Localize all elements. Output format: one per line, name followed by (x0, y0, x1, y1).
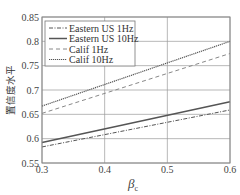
x-tick-label: 0.3 (36, 164, 49, 175)
legend-label: Eastern US 1Hz (69, 23, 134, 34)
x-axis-label: βc (127, 176, 138, 193)
legend-label: Calif 1Hz (69, 44, 109, 55)
series-line (42, 110, 230, 147)
x-tick-label: 0.6 (224, 164, 237, 175)
y-tick-label: 0.8 (27, 36, 40, 47)
x-tick-label: 0.5 (161, 164, 174, 175)
x-axis-ticks: 0.30.40.50.6 (36, 164, 237, 175)
y-axis-ticks: 0.550.60.650.70.750.80.85 (22, 12, 40, 169)
y-tick-label: 0.75 (22, 60, 40, 71)
y-tick-label: 0.7 (27, 85, 40, 96)
legend: Eastern US 1HzEastern US 10HzCalif 1HzCa… (45, 21, 139, 66)
series-line (42, 102, 230, 143)
y-tick-label: 0.65 (22, 109, 40, 120)
legend-label: Calif 10Hz (69, 54, 114, 65)
legend-label: Eastern US 10Hz (69, 33, 139, 44)
x-tick-label: 0.4 (98, 164, 111, 175)
y-tick-label: 0.85 (22, 12, 40, 23)
line-chart: 0.550.60.650.70.750.80.85 0.30.40.50.6 E… (0, 0, 240, 195)
y-axis-label: 置信度水平 (5, 65, 16, 115)
y-tick-label: 0.6 (27, 133, 40, 144)
